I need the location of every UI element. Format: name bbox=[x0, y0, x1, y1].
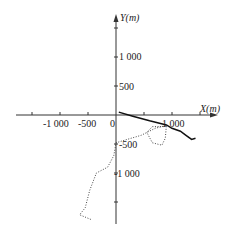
y-tick-label-neg500: -500 bbox=[119, 139, 137, 150]
x-axis bbox=[16, 113, 218, 118]
x-tick-label-neg500: -500 bbox=[78, 118, 96, 129]
x-axis-label: X(m) bbox=[199, 103, 221, 115]
y-axis-arrow-icon bbox=[114, 14, 119, 22]
y-tick-label-neg1000: -1 000 bbox=[114, 168, 140, 179]
x-tick-label-neg1000: -1 000 bbox=[43, 118, 69, 129]
y-axis-label: Y(m) bbox=[120, 12, 140, 24]
x-tick-label-1000: 1 000 bbox=[162, 118, 185, 129]
chart-svg: X(m) Y(m) 0 -1 000 -500 1 000 1 000 500 … bbox=[0, 0, 238, 236]
y-tick-label-500: 500 bbox=[119, 81, 134, 92]
y-tick-label-1000: 1 000 bbox=[119, 51, 142, 62]
origin-label: 0 bbox=[110, 118, 115, 129]
